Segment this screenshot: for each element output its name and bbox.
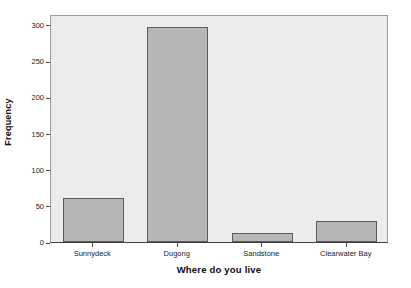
x-axis-title: Where do you live: [50, 264, 388, 275]
y-axis-tick-label: 150: [31, 131, 46, 139]
plot-area: [50, 15, 388, 243]
bar-series: [51, 16, 387, 242]
y-axis-tick-label: 0: [40, 239, 46, 247]
x-axis-category-label: Dugong: [164, 249, 190, 258]
x-axis-category-label: Sunnydeck: [74, 249, 111, 258]
bar: [232, 233, 293, 242]
x-axis-category-labels: SunnydeckDugongSandstoneClearwater Bay: [50, 249, 388, 263]
y-axis-tick-label: 200: [31, 94, 46, 102]
x-axis-tick-mark: [92, 243, 93, 247]
bar-chart: Frequency 050100150200250300 SunnydeckDu…: [0, 0, 411, 288]
y-axis-ticks: 050100150200250300: [0, 0, 50, 288]
x-axis-tick-mark: [177, 243, 178, 247]
y-axis-tick-label: 100: [31, 167, 46, 175]
bar: [147, 27, 208, 242]
x-axis-category-label: Clearwater Bay: [320, 249, 371, 258]
y-axis-tick-label: 250: [31, 58, 46, 66]
y-axis-tick-label: 300: [31, 22, 46, 30]
x-axis-tick-mark: [261, 243, 262, 247]
bar: [63, 198, 124, 242]
bar: [316, 221, 377, 242]
x-axis-tick-mark: [346, 243, 347, 247]
x-axis-category-label: Sandstone: [243, 249, 279, 258]
y-axis-tick-label: 50: [36, 203, 46, 211]
